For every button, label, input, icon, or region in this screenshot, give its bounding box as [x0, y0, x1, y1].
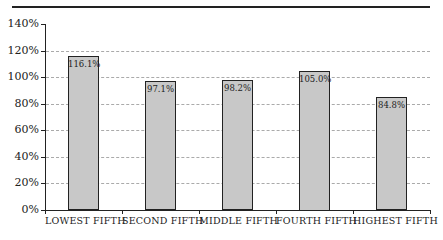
bar [68, 56, 99, 210]
x-category-label: FOURTH FIFTH [276, 215, 353, 226]
y-axis [45, 24, 46, 211]
x-tick [430, 210, 431, 214]
bar-value-label: 97.1% [145, 84, 176, 94]
y-tick-label: 100% [0, 71, 39, 83]
y-tick-label: 20% [0, 177, 39, 189]
gridline [46, 77, 430, 78]
bar [376, 97, 407, 210]
y-tick-label: 140% [0, 18, 39, 30]
bar-value-label: 116.1% [68, 59, 99, 69]
bar-value-label: 105.0% [299, 74, 330, 84]
y-tick-label: 60% [0, 124, 39, 136]
bar [222, 80, 253, 210]
bar [299, 71, 330, 211]
bar-value-label: 98.2% [222, 83, 253, 93]
bar-value-label: 84.8% [376, 100, 407, 110]
y-tick-label: 120% [0, 45, 39, 57]
x-category-label: HIGHEST FIFTH [353, 215, 430, 226]
y-tick-label: 40% [0, 151, 39, 163]
y-tick-label: 0% [0, 204, 39, 216]
top-rule [12, 6, 430, 8]
x-axis [45, 210, 430, 211]
x-category-label: MIDDLE FIFTH [199, 215, 276, 226]
bar [145, 81, 176, 210]
x-category-label: SECOND FIFTH [122, 215, 199, 226]
gridline [46, 51, 430, 52]
x-category-label: LOWEST FIFTH [45, 215, 122, 226]
y-tick-label: 80% [0, 98, 39, 110]
